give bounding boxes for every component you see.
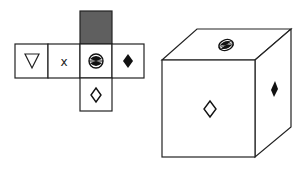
net-cell-top-shaded [80, 11, 112, 44]
x-letter-label: x [60, 55, 67, 69]
net-cell-triangle [15, 44, 48, 78]
hourglass-disc-icon [89, 54, 103, 68]
cube-net-diagram: x [0, 0, 306, 169]
